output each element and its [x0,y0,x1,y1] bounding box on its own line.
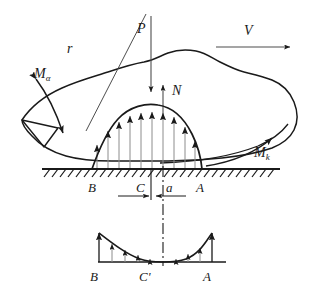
offset-dimension-group: a [118,169,186,200]
velocity-label: V [244,23,254,38]
point-c-upper-label: C [136,180,145,195]
point-b-lower-label: B [90,269,98,284]
mechanics-diagram: r P V N Mα Mk [0,0,312,291]
point-a-lower-label: A [202,269,211,284]
normal-reaction-N-group: N [163,83,182,118]
point-a-upper-label: A [195,180,204,195]
lower-envelope-curve [99,233,212,262]
lower-diagram: B C' A [90,233,226,284]
radius-label: r [67,41,73,56]
point-b-upper-label: B [88,180,96,195]
upper-point-labels: B C A [88,180,204,195]
moment-alpha-arc-arrow [36,79,63,133]
ground-hatching [44,169,274,177]
ground-line-group [42,169,280,177]
figure-container: r P V N Mα Mk [0,0,312,291]
load-P-group: P [136,16,151,92]
pressure-distribution-arrows [92,104,202,169]
offset-label: a [166,180,173,195]
moment-k-label: Mk [253,145,271,162]
normal-reaction-label: N [171,83,182,98]
point-c-lower-label: C' [139,269,151,284]
load-P-label: P [136,21,146,36]
velocity-V-group: V [216,23,290,47]
moment-alpha-label: Mα [33,66,51,83]
left-deformation-wedge [22,120,58,147]
